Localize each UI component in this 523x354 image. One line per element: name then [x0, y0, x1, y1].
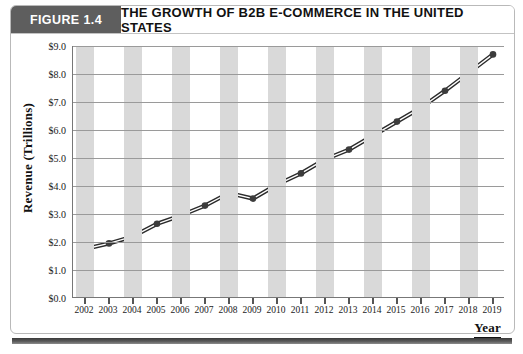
- x-axis-title: Year: [474, 320, 501, 339]
- y-tick-label: $3.0: [26, 209, 66, 220]
- background-band: [76, 46, 94, 297]
- background-band: [220, 46, 238, 297]
- gridline: [73, 158, 504, 159]
- x-tick-mark: [492, 298, 494, 304]
- y-tick-label: $2.0: [26, 237, 66, 248]
- y-axis-tick-labels: $0.0$1.0$2.0$3.0$4.0$5.0$6.0$7.0$8.0$9.0: [22, 46, 66, 298]
- x-tick-mark: [372, 298, 374, 304]
- x-tick-mark: [396, 298, 398, 304]
- x-axis-tick-marks: [72, 298, 504, 305]
- gridline: [73, 102, 504, 103]
- x-tick-mark: [156, 298, 158, 304]
- background-band: [460, 46, 478, 297]
- data-point-marker: 2015: $6.30T: [394, 118, 401, 125]
- y-tick-label: $1.0: [26, 265, 66, 276]
- data-point-marker: 2005: $2.65T: [154, 221, 161, 228]
- x-tick-mark: [132, 298, 134, 304]
- background-band: [316, 46, 334, 297]
- x-axis-tick-labels: 2002200320042005200620072008200920102011…: [72, 305, 504, 319]
- figure-number-badge: FIGURE 1.4: [11, 6, 121, 33]
- gridline: [73, 214, 504, 215]
- y-tick-label: $0.0: [26, 293, 66, 304]
- data-point-marker: 2019: $8.70T: [490, 51, 497, 58]
- header-divider: [11, 33, 514, 34]
- gridline: [73, 186, 504, 187]
- figure-header: FIGURE 1.4 THE GROWTH OF B2B E-COMMERCE …: [11, 6, 514, 33]
- y-tick-label: $8.0: [26, 69, 66, 80]
- data-point-marker: 2011: $4.45T: [298, 170, 305, 177]
- background-band: [124, 46, 142, 297]
- series-stroke-inner: [85, 54, 493, 249]
- gridline: [73, 270, 504, 271]
- background-band: [172, 46, 190, 297]
- data-point-marker: 2009: $3.55T: [250, 195, 257, 202]
- x-tick-mark: [348, 298, 350, 304]
- x-tick-mark: [444, 298, 446, 304]
- figure-container: FIGURE 1.4 THE GROWTH OF B2B E-COMMERCE …: [0, 0, 523, 354]
- background-band: [268, 46, 286, 297]
- y-tick-label: $6.0: [26, 125, 66, 136]
- x-tick-mark: [204, 298, 206, 304]
- x-tick-mark: [276, 298, 278, 304]
- x-tick-mark: [228, 298, 230, 304]
- plot-area: 2002: $1.75T2003: $1.95T2004: $2.20T2005…: [72, 46, 504, 298]
- x-tick-mark: [468, 298, 470, 304]
- series-stroke-outer: [85, 54, 493, 249]
- background-band: [412, 46, 430, 297]
- gridline: [73, 74, 504, 75]
- gridline: [73, 46, 504, 47]
- bottom-rule: [12, 338, 512, 344]
- x-tick-mark: [420, 298, 422, 304]
- y-tick-label: $9.0: [26, 41, 66, 52]
- x-tick-mark: [84, 298, 86, 304]
- x-tick-mark: [108, 298, 110, 304]
- figure-title: THE GROWTH OF B2B E-COMMERCE IN THE UNIT…: [121, 6, 514, 33]
- y-tick-label: $4.0: [26, 181, 66, 192]
- y-tick-label: $5.0: [26, 153, 66, 164]
- x-tick-mark: [300, 298, 302, 304]
- x-tick-mark: [252, 298, 254, 304]
- x-tick-label: 2019: [475, 305, 509, 315]
- data-point-marker: 2017: $7.40T: [442, 88, 449, 95]
- data-point-marker: 2007: $3.30T: [202, 202, 209, 209]
- x-tick-mark: [324, 298, 326, 304]
- y-tick-label: $7.0: [26, 97, 66, 108]
- gridline: [73, 242, 504, 243]
- plot-wrapper: 2002: $1.75T2003: $1.95T2004: $2.20T2005…: [72, 46, 504, 298]
- x-tick-mark: [180, 298, 182, 304]
- data-point-marker: 2013: $5.30T: [346, 146, 353, 153]
- background-band: [364, 46, 382, 297]
- gridline: [73, 130, 504, 131]
